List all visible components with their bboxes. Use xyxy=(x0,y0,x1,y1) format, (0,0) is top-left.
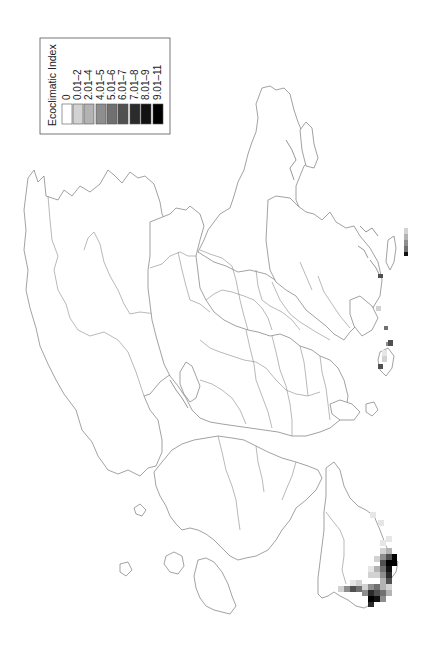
legend-swatch-2 xyxy=(84,104,94,124)
legend-swatch-8 xyxy=(153,104,163,124)
legend-label-1: 0.01–2 xyxy=(72,69,83,100)
legend-label-3: 4.01–5 xyxy=(95,69,106,100)
legend-swatch-4 xyxy=(107,104,117,124)
legend-label-0: 0 xyxy=(61,94,72,100)
legend-title: Ecoclimatic Index xyxy=(46,44,58,126)
legend-label-7: 8.01–9 xyxy=(140,69,151,100)
legend-label-5: 6.01–7 xyxy=(117,69,128,100)
legend-swatch-7 xyxy=(141,104,151,124)
ecoclimatic-map-figure: Ecoclimatic Index 0 0.01–2 2.01–4 4.01–5… xyxy=(0,0,430,647)
map-canvas: Ecoclimatic Index 0 0.01–2 2.01–4 4.01–5… xyxy=(0,0,430,647)
legend-swatch-0 xyxy=(62,104,72,124)
legend-label-2: 2.01–4 xyxy=(83,69,94,100)
legend-label-4: 5.01–6 xyxy=(106,69,117,100)
legend: Ecoclimatic Index 0 0.01–2 2.01–4 4.01–5… xyxy=(40,38,170,134)
legend-swatch-5 xyxy=(118,104,128,124)
legend-swatch-6 xyxy=(130,104,140,124)
legend-label-6: 7.01–8 xyxy=(129,69,140,100)
legend-swatch-3 xyxy=(96,104,106,124)
legend-swatch-1 xyxy=(73,104,83,124)
legend-label-8: 9.01–11 xyxy=(152,64,163,100)
landmass-outlines xyxy=(24,86,398,614)
